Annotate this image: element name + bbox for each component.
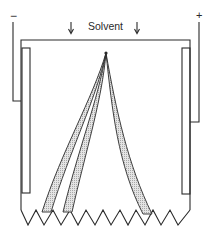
- electrophoresis-diagram: [0, 0, 210, 236]
- anode-plate: [182, 48, 190, 194]
- solvent-arrow-left-icon: [69, 22, 74, 34]
- solvent-label: Solvent: [88, 21, 123, 32]
- cathode-label: −: [10, 10, 17, 22]
- cathode-wire: [13, 22, 21, 101]
- anode-label: +: [196, 10, 202, 21]
- cathode-plate: [22, 48, 30, 193]
- band-3: [106, 53, 152, 214]
- solvent-arrow-right-icon: [135, 22, 140, 34]
- anode-wire: [190, 22, 199, 122]
- chamber-outline: [21, 40, 190, 210]
- application-point: [104, 51, 107, 54]
